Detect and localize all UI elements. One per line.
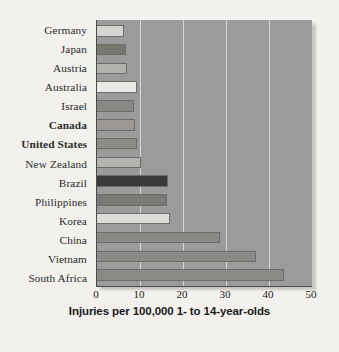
category-label: United States	[0, 136, 92, 154]
category-label: Canada	[0, 117, 92, 135]
bar	[97, 44, 126, 56]
category-label: Vietnam	[0, 251, 92, 269]
bar-row	[97, 41, 312, 59]
bar-row	[97, 22, 312, 40]
category-label: Israel	[0, 98, 92, 116]
bar	[97, 119, 135, 131]
bar	[97, 63, 127, 75]
x-axis-ticks: 01020304050	[96, 288, 311, 304]
x-axis-label: Injuries per 100,000 1- to 14-year-olds	[0, 305, 339, 317]
bar-series	[97, 20, 312, 286]
x-tick-label: 0	[93, 288, 99, 300]
category-label-axis: GermanyJapanAustriaAustraliaIsraelCanada…	[0, 20, 92, 288]
category-label: China	[0, 232, 92, 250]
bar-row	[97, 153, 312, 171]
bar	[97, 175, 168, 187]
bar-row	[97, 172, 312, 190]
bar	[97, 81, 137, 93]
category-label: Korea	[0, 213, 92, 231]
bar	[97, 157, 141, 169]
bar-row	[97, 97, 312, 115]
bar-row	[97, 60, 312, 78]
bar	[97, 25, 124, 37]
bar	[97, 269, 284, 281]
category-label: Philippines	[0, 194, 92, 212]
category-label: Japan	[0, 41, 92, 59]
x-tick-label: 20	[177, 288, 188, 300]
category-label: Brazil	[0, 175, 92, 193]
bar-row	[97, 266, 312, 284]
bar-row	[97, 135, 312, 153]
category-label: Germany	[0, 22, 92, 40]
plot-area	[96, 20, 312, 287]
category-label: Austria	[0, 60, 92, 78]
bar-row	[97, 229, 312, 247]
bar-chart-figure: GermanyJapanAustriaAustraliaIsraelCanada…	[0, 0, 339, 352]
category-label: South Africa	[0, 270, 92, 288]
bar-row	[97, 191, 312, 209]
bar	[97, 138, 137, 150]
bar	[97, 194, 167, 206]
bar-row	[97, 78, 312, 96]
category-label: Australia	[0, 79, 92, 97]
x-tick-label: 40	[263, 288, 274, 300]
category-label: New Zealand	[0, 156, 92, 174]
bar	[97, 100, 134, 112]
bar-row	[97, 116, 312, 134]
x-tick-label: 10	[134, 288, 145, 300]
bar	[97, 232, 220, 244]
bar	[97, 251, 256, 263]
x-tick-label: 50	[306, 288, 317, 300]
x-tick-label: 30	[220, 288, 231, 300]
bar-row	[97, 210, 312, 228]
bar-row	[97, 247, 312, 265]
bar	[97, 213, 170, 225]
caption-fragment	[4, 344, 124, 350]
